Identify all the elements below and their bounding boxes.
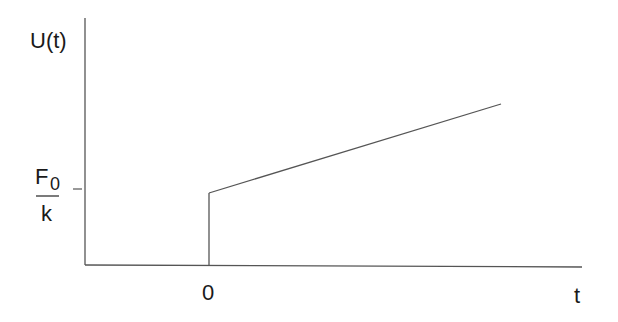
y-axis-label: U(t) bbox=[30, 28, 67, 53]
x-axis-label: t bbox=[574, 283, 580, 308]
level-numerator-subscript: 0 bbox=[50, 174, 60, 194]
origin-tick-label: 0 bbox=[202, 280, 214, 305]
level-denominator: k bbox=[41, 201, 53, 226]
level-numerator: F bbox=[35, 164, 48, 189]
response-diagram: U(t) t 0 F 0 k bbox=[0, 0, 618, 322]
ramp-line bbox=[209, 104, 501, 193]
x-axis bbox=[85, 265, 582, 267]
